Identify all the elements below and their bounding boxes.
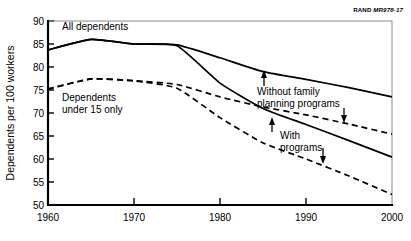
x-tick-1970: 1970 — [123, 212, 146, 223]
annotation-with-line2: programs — [280, 142, 322, 153]
annotation-with-line1: With — [280, 130, 300, 141]
source-tag: RAND MR978-17 — [353, 6, 403, 13]
source-code: MR978-17 — [373, 6, 403, 13]
x-tick-1980: 1980 — [209, 212, 232, 223]
y-tick-80: 80 — [33, 62, 45, 73]
x-tick-1990: 1990 — [295, 212, 318, 223]
annotation-all-dependents: All dependents — [62, 21, 128, 32]
y-tick-90: 90 — [33, 16, 45, 27]
annotation-without-line1: Without family — [257, 86, 320, 97]
data-series-layer — [48, 39, 392, 194]
y-tick-50: 50 — [33, 200, 45, 211]
x-tick-1960: 1960 — [37, 212, 60, 223]
series-line-0 — [48, 39, 392, 97]
annotation-under15-line1: Dependents — [62, 92, 116, 103]
annotation-under15-line2: under 15 only — [62, 104, 123, 115]
y-axis-tick-labels: 90 85 80 75 70 65 60 55 50 — [33, 16, 45, 211]
x-tick-2000: 2000 — [381, 212, 404, 223]
y-axis-title: Dependents per 100 workers — [4, 46, 16, 181]
source-brand: RAND — [353, 6, 371, 13]
chart-figure: RAND MR978-17 Dependents per 100 workers… — [0, 0, 411, 241]
y-tick-85: 85 — [33, 39, 45, 50]
y-tick-60: 60 — [33, 154, 45, 165]
arrow-with-up-icon — [269, 117, 275, 132]
y-tick-75: 75 — [33, 85, 45, 96]
y-tick-55: 55 — [33, 177, 45, 188]
x-axis-tick-labels: 1960 1970 1980 1990 2000 — [37, 212, 404, 223]
annotation-without-line2: planning programs — [257, 98, 340, 109]
line-chart-svg: Dependents per 100 workers 90 85 80 75 7… — [0, 0, 411, 241]
y-tick-70: 70 — [33, 108, 45, 119]
y-tick-65: 65 — [33, 131, 45, 142]
arrow-without-down-icon — [341, 108, 347, 123]
